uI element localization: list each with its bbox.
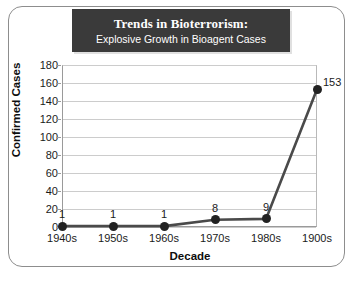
y-tick-mark [56, 119, 61, 120]
gridline [63, 227, 316, 228]
y-tick-mark [56, 101, 61, 102]
gridline [63, 209, 316, 210]
y-tick-mark [56, 173, 61, 174]
y-tick-label: 20 [6, 204, 58, 215]
x-tick-label: 1970s [200, 232, 230, 244]
y-tick-mark [56, 227, 61, 228]
chart-title-subtitle: Explosive Growth in Bioagent Cases [96, 32, 266, 46]
gridline [63, 137, 316, 138]
gridline [63, 119, 316, 120]
y-tick-mark [56, 155, 61, 156]
y-tick-mark [56, 65, 61, 66]
y-tick-label: 40 [6, 186, 58, 197]
chart-figure: Trends in Bioterrorism: Explosive Growth… [0, 0, 359, 284]
y-tick-mark [56, 83, 61, 84]
gridline [63, 83, 316, 84]
y-tick-mark [56, 209, 61, 210]
gridline [63, 191, 316, 192]
x-tick-label: 1950s [98, 232, 128, 244]
x-tick-label: 1960s [149, 232, 179, 244]
x-tick-label: 1940s [47, 232, 77, 244]
y-tick-mark [56, 191, 61, 192]
chart-title-main: Trends in Bioterrorism: [114, 16, 248, 31]
chart-title-box: Trends in Bioterrorism: Explosive Growth… [72, 9, 290, 52]
y-axis-ticks: 020406080100120140160180 [0, 65, 58, 228]
x-tick-label: 1980s [251, 232, 281, 244]
y-tick-mark [56, 137, 61, 138]
gridline [63, 155, 316, 156]
x-axis-ticks: 1940s1950s1960s1970s1980s1900s [62, 232, 318, 248]
x-axis-title: Decade [62, 250, 318, 262]
gridline [63, 65, 316, 66]
x-tick-label: 1900s [302, 232, 332, 244]
y-axis-title: Confirmed Cases [10, 50, 22, 170]
plot-area [62, 65, 317, 227]
gridline [63, 173, 316, 174]
gridline [63, 101, 316, 102]
